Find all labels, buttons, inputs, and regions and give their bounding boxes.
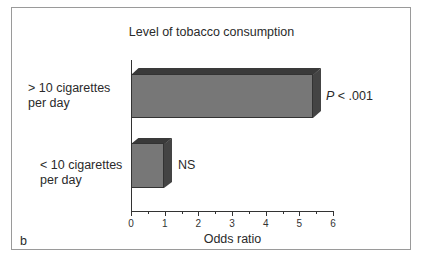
bar-low [131, 143, 164, 188]
annotation-low: NS [178, 158, 195, 172]
category-label-line: per day [28, 96, 110, 111]
x-axis-minor-tick [249, 211, 250, 214]
category-label-line: < 10 cigarettes [40, 158, 122, 173]
x-axis-tick-label: 4 [263, 218, 269, 229]
x-axis-tick-label: 5 [297, 218, 303, 229]
category-label-high: > 10 cigarettes per day [28, 81, 110, 111]
x-axis-tick-label: 3 [229, 218, 235, 229]
x-axis-minor-tick [283, 211, 284, 214]
x-axis-major-tick [333, 211, 334, 216]
category-label-line: per day [40, 173, 122, 188]
x-axis-major-tick [232, 211, 233, 216]
bar-low-side [164, 138, 172, 188]
panel-label: b [20, 234, 27, 248]
bar-high [131, 74, 313, 118]
x-axis-tick-label: 0 [128, 218, 134, 229]
x-axis-minor-tick [316, 211, 317, 214]
x-axis-minor-tick [148, 211, 149, 214]
x-axis-tick-label: 2 [196, 218, 202, 229]
x-axis-major-tick [299, 211, 300, 216]
figure-frame [11, 7, 411, 250]
x-axis-tick-label: 6 [330, 218, 336, 229]
x-axis-label: Odds ratio [0, 232, 423, 246]
x-axis-tick-label: 1 [162, 218, 168, 229]
annotation-text: < .001 [334, 89, 373, 103]
x-axis-major-tick [198, 211, 199, 216]
category-label-low: < 10 cigarettes per day [40, 158, 122, 188]
annotation-high: P < .001 [326, 89, 373, 103]
x-axis-minor-tick [182, 211, 183, 214]
bar-high-side [313, 68, 321, 118]
x-axis-major-tick [131, 211, 132, 216]
x-axis-minor-tick [215, 211, 216, 214]
annotation-text: NS [178, 158, 195, 172]
x-axis-major-tick [266, 211, 267, 216]
chart-title: Level of tobacco consumption [0, 25, 423, 39]
category-label-line: > 10 cigarettes [28, 81, 110, 96]
x-axis-major-tick [165, 211, 166, 216]
